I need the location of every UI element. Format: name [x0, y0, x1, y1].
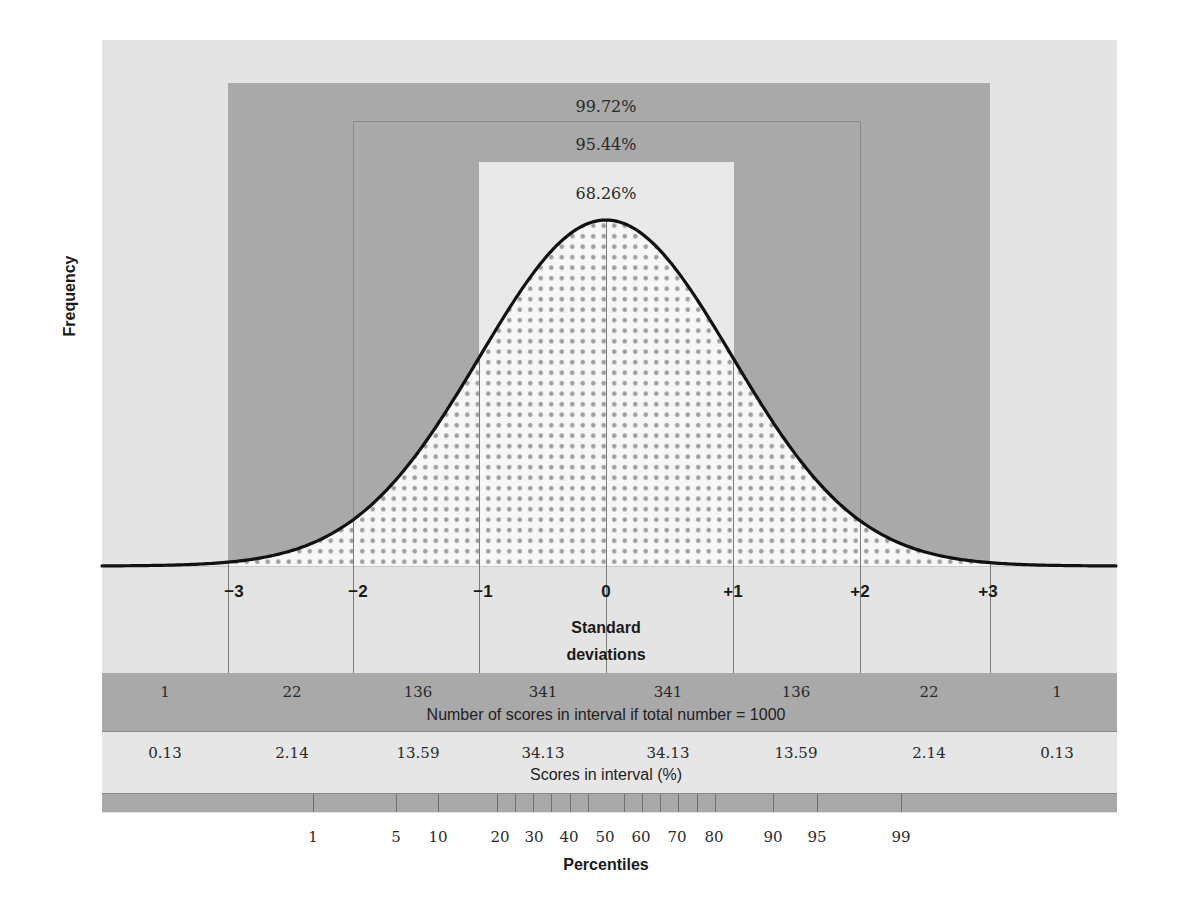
- sd-label: +3: [978, 582, 997, 601]
- y-axis-title: Frequency: [61, 255, 78, 336]
- percentile-label: 99: [891, 828, 910, 846]
- band-label-95-44: 95.44%: [575, 135, 636, 154]
- percent-cell: 13.59: [397, 744, 440, 762]
- percentile-label: 60: [631, 828, 650, 846]
- table-row-percent: [102, 731, 1117, 793]
- percent-cell: 2.14: [912, 744, 945, 762]
- percentile-label: 50: [595, 828, 614, 846]
- count-cell: 136: [404, 683, 433, 701]
- percent-cell: 34.13: [647, 744, 690, 762]
- x-axis-title-line2: deviations: [566, 646, 645, 663]
- percentile-label: 80: [704, 828, 723, 846]
- sd-label: −1: [473, 582, 492, 601]
- count-cell: 22: [919, 683, 938, 701]
- percent-cell: 34.13: [522, 744, 565, 762]
- percentile-label: 20: [490, 828, 509, 846]
- counts-caption: Number of scores in interval if total nu…: [427, 706, 786, 723]
- percentile-label: 95: [807, 828, 826, 846]
- normal-distribution-chart: 99.72% 95.44% 68.26% −3 −2 −1 0 +1 +2 +3…: [0, 0, 1180, 912]
- sd-label: +2: [850, 582, 869, 601]
- count-cell: 341: [654, 683, 683, 701]
- percentile-strip: [102, 793, 1117, 812]
- percentile-label: 30: [524, 828, 543, 846]
- percentiles-title: Percentiles: [563, 856, 648, 873]
- percent-cell: 2.14: [275, 744, 308, 762]
- sd-label: −3: [224, 582, 243, 601]
- percentile-labels: 151020304050607080909599: [308, 828, 910, 846]
- band-label-68-26: 68.26%: [575, 184, 636, 203]
- percentile-label: 40: [559, 828, 578, 846]
- count-cell: 1: [160, 683, 170, 701]
- sd-label: +1: [723, 582, 742, 601]
- count-cell: 22: [282, 683, 301, 701]
- x-axis-title-line1: Standard: [571, 619, 640, 636]
- percentile-label: 90: [763, 828, 782, 846]
- percentile-label: 5: [391, 828, 401, 846]
- count-cell: 341: [529, 683, 558, 701]
- percent-cell: 0.13: [1040, 744, 1073, 762]
- band-label-99-72: 99.72%: [575, 97, 636, 116]
- percent-caption: Scores in interval (%): [530, 766, 682, 783]
- percent-cell: 0.13: [148, 744, 181, 762]
- count-cell: 1: [1052, 683, 1062, 701]
- sd-label: −2: [348, 582, 367, 601]
- count-cell: 136: [782, 683, 811, 701]
- sd-label: 0: [601, 582, 610, 601]
- percentile-label: 70: [667, 828, 686, 846]
- percentile-label: 1: [308, 828, 318, 846]
- percentile-label: 10: [428, 828, 447, 846]
- percent-cell: 13.59: [775, 744, 818, 762]
